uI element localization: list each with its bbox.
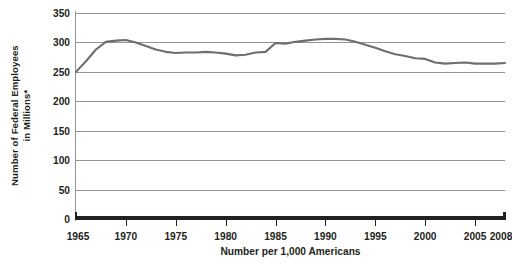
x-tick-mark-1970 <box>126 220 127 226</box>
y-tick-label-150: 150 <box>53 125 70 136</box>
gridline-y-100 <box>76 160 505 161</box>
x-axis-right-endcap <box>503 212 506 220</box>
y-axis-tick-labels: 050100150200250300350 <box>38 0 74 232</box>
x-tick-mark-1995 <box>375 220 376 226</box>
x-axis-title: Number per 1,000 Americans <box>76 246 505 257</box>
y-axis-title: Number of Federal Employees in Millions* <box>0 0 40 232</box>
y-axis-title-text: Number of Federal Employees in Millions* <box>8 46 31 187</box>
x-tick-label-2008: 2008 <box>490 231 512 242</box>
gridline-y-200 <box>76 101 505 102</box>
x-tick-label-1995: 1995 <box>364 231 387 242</box>
x-axis-left-endcap <box>75 212 77 220</box>
x-tick-mark-1980 <box>226 220 227 226</box>
x-tick-mark-1985 <box>276 220 277 226</box>
x-tick-label-1985: 1985 <box>264 231 287 242</box>
x-axis-line <box>75 216 506 220</box>
x-tick-label-1975: 1975 <box>164 231 187 242</box>
x-tick-label-1965: 1965 <box>67 231 90 242</box>
y-tick-label-200: 200 <box>53 96 70 107</box>
gridline-y-50 <box>76 190 505 191</box>
x-tick-mark-1975 <box>176 220 177 226</box>
gridline-y-350 <box>76 13 505 14</box>
gridline-y-300 <box>76 42 505 43</box>
x-tick-mark-2005 <box>475 220 476 226</box>
y-tick-label-300: 300 <box>53 37 70 48</box>
x-tick-mark-2000 <box>425 220 426 226</box>
x-tick-label-2000: 2000 <box>414 231 437 242</box>
y-axis-title-line2: in Millions* <box>20 46 32 187</box>
y-tick-label-0: 0 <box>64 214 70 225</box>
x-tick-mark-1990 <box>325 220 326 226</box>
y-axis-title-line1: Number of Federal Employees <box>8 46 19 187</box>
x-tick-label-1980: 1980 <box>214 231 237 242</box>
y-tick-label-250: 250 <box>53 66 70 77</box>
y-tick-label-50: 50 <box>59 184 70 195</box>
gridline-y-150 <box>76 131 505 132</box>
x-tick-label-1970: 1970 <box>115 231 138 242</box>
x-tick-label-1990: 1990 <box>314 231 337 242</box>
y-tick-label-350: 350 <box>53 8 70 19</box>
gridline-y-250 <box>76 72 505 73</box>
y-tick-label-100: 100 <box>53 155 70 166</box>
x-tick-label-2005: 2005 <box>464 231 487 242</box>
plot-area <box>76 13 505 219</box>
